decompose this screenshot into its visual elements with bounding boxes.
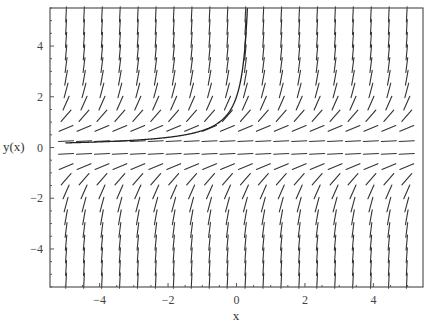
- slope-segment: [404, 185, 410, 199]
- slope-segment: [314, 185, 320, 199]
- slope-segment: [120, 7, 121, 22]
- slope-segment: [278, 185, 284, 199]
- slope-segment: [223, 174, 233, 185]
- slope-segment: [328, 126, 342, 132]
- slope-segment: [185, 164, 199, 170]
- slope-segment: [153, 96, 159, 110]
- slope-segment: [260, 185, 266, 199]
- slope-segment: [348, 174, 358, 185]
- slope-segment: [187, 174, 197, 185]
- slope-segment: [364, 164, 378, 170]
- slope-segment: [221, 126, 235, 132]
- slope-segment: [61, 110, 71, 121]
- slope-segment: [400, 126, 414, 132]
- slope-segment: [115, 110, 125, 121]
- slope-segment: [81, 96, 87, 110]
- slope-segment: [294, 110, 304, 121]
- slope-segment: [310, 141, 325, 142]
- slope-segment: [94, 153, 109, 154]
- slope-segment: [102, 7, 103, 22]
- slope-segment: [350, 185, 356, 199]
- slope-segment: [256, 126, 270, 132]
- slope-segment: [281, 7, 282, 22]
- slope-segment: [328, 141, 343, 142]
- slope-segment: [207, 96, 213, 110]
- slope-segment: [203, 164, 217, 170]
- slope-segment: [274, 126, 288, 132]
- slope-segment: [388, 7, 389, 22]
- slope-segment: [404, 96, 410, 110]
- slope-segment: [77, 126, 91, 132]
- slope-segment: [191, 7, 192, 22]
- y-tick-label: 2: [37, 90, 43, 104]
- slope-segment: [131, 164, 145, 170]
- slope-segment: [350, 96, 356, 110]
- slope-segment: [131, 126, 145, 132]
- slope-segment: [189, 96, 195, 110]
- slope-segment: [135, 185, 141, 199]
- slope-segment: [368, 96, 374, 110]
- slope-segment: [310, 164, 324, 170]
- slope-segment: [189, 185, 195, 199]
- slope-segment: [166, 153, 181, 154]
- slope-segment: [77, 164, 91, 170]
- slope-segment: [310, 126, 324, 132]
- slope-segment: [274, 164, 288, 170]
- slope-segment: [276, 174, 286, 185]
- slope-segment: [117, 185, 123, 199]
- slope-segment: [363, 141, 378, 142]
- slope-segment: [245, 7, 246, 22]
- slope-segment: [292, 126, 306, 132]
- slope-segment: [169, 174, 179, 185]
- x-tick-label: 4: [370, 293, 376, 307]
- slope-segment: [314, 96, 320, 110]
- slope-segment: [382, 126, 396, 132]
- slope-segment: [382, 164, 396, 170]
- slope-segment: [366, 110, 376, 121]
- slope-segment: [66, 7, 67, 22]
- slope-segment: [169, 110, 179, 121]
- slope-segment: [258, 110, 268, 121]
- slope-segment: [276, 110, 286, 121]
- slope-segment: [292, 164, 306, 170]
- slope-segment: [353, 7, 354, 22]
- slope-segment: [79, 110, 89, 121]
- slope-segment: [258, 174, 268, 185]
- y-tick-label: −2: [30, 191, 43, 205]
- slope-segment: [205, 174, 215, 185]
- slope-segment: [99, 185, 105, 199]
- slope-segment: [137, 7, 138, 22]
- slope-segment: [221, 164, 235, 170]
- y-tick-label: −4: [30, 242, 43, 256]
- slope-segment: [384, 110, 394, 121]
- slope-segment: [328, 164, 342, 170]
- slope-segment: [184, 141, 199, 142]
- slope-segment: [220, 141, 235, 142]
- slope-segment: [95, 164, 109, 170]
- slope-segment: [363, 153, 378, 154]
- slope-segment: [292, 141, 307, 142]
- slope-segment: [381, 153, 396, 154]
- slope-segment: [238, 153, 253, 154]
- slope-segment: [59, 164, 73, 170]
- slope-segment: [115, 174, 125, 185]
- slope-segment: [386, 96, 392, 110]
- slope-segment: [386, 185, 392, 199]
- slope-segment: [133, 110, 143, 121]
- slope-segment: [238, 141, 253, 142]
- slope-segment: [332, 185, 338, 199]
- plot-frame: [50, 8, 423, 287]
- slope-segment: [346, 126, 360, 132]
- slope-segment: [63, 185, 69, 199]
- slope-segment: [317, 7, 318, 22]
- slope-segment: [330, 174, 340, 185]
- slope-segment: [381, 141, 396, 142]
- slope-segment: [224, 96, 230, 110]
- slope-segment: [238, 126, 252, 132]
- slope-segment: [202, 153, 217, 154]
- slope-segment: [224, 185, 230, 199]
- slope-segment: [59, 126, 73, 132]
- slope-segment: [274, 153, 289, 154]
- slope-segment: [171, 96, 177, 110]
- slope-segment: [328, 153, 343, 154]
